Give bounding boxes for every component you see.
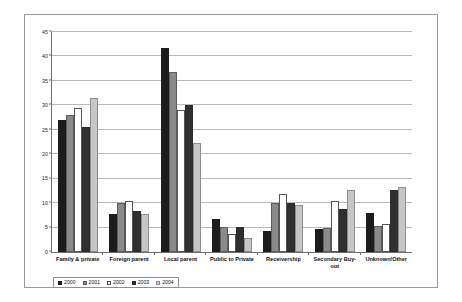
bar-group-bars: [103, 32, 154, 252]
y-tick-label: 20: [42, 152, 48, 157]
bar-group: [155, 32, 206, 252]
bar-2003[interactable]: [287, 203, 295, 252]
bar-2003[interactable]: [390, 190, 398, 252]
y-tick-label: 25: [42, 127, 48, 132]
y-tick-label: 40: [42, 54, 48, 59]
bar-2002[interactable]: [382, 224, 390, 252]
bar-2002[interactable]: [177, 110, 185, 252]
x-axis-tick: [257, 252, 258, 255]
bar-group: [206, 32, 257, 252]
bar-2000[interactable]: [161, 48, 169, 252]
x-axis-tick: [102, 252, 103, 255]
bar-2004[interactable]: [193, 143, 201, 252]
bar-2004[interactable]: [347, 190, 355, 252]
bar-group: [361, 32, 412, 252]
bar-2001[interactable]: [271, 203, 279, 252]
bar-group: [52, 32, 103, 252]
bar-group-bars: [155, 32, 206, 252]
bar-2000[interactable]: [366, 213, 374, 252]
legend-label: 2004: [162, 280, 174, 285]
bar-2003[interactable]: [236, 227, 244, 252]
bar-2003[interactable]: [133, 211, 141, 252]
bar-group-bars: [52, 32, 103, 252]
bar-2004[interactable]: [295, 205, 303, 252]
legend-swatch-icon: [107, 281, 111, 285]
bar-2003[interactable]: [82, 127, 90, 252]
x-axis-labels: Family & privateForeign parentLocal pare…: [52, 256, 412, 270]
legend-item-2002[interactable]: 2002: [107, 280, 125, 285]
bar-2000[interactable]: [263, 231, 271, 252]
bar-2002[interactable]: [279, 194, 287, 252]
bar-2002[interactable]: [331, 201, 339, 252]
x-axis-tick: [154, 252, 155, 255]
x-axis-label: Unknown/Other: [361, 256, 412, 270]
legend-label: 2003: [138, 280, 150, 285]
chart-frame: 051015202530354045 Family & privateForei…: [24, 14, 438, 288]
bar-group: [309, 32, 360, 252]
bar-2000[interactable]: [58, 120, 66, 252]
bar-2001[interactable]: [220, 227, 228, 252]
bar-group-bars: [309, 32, 360, 252]
bar-2002[interactable]: [74, 108, 82, 252]
legend-swatch-icon: [83, 281, 87, 285]
bar-2001[interactable]: [117, 203, 125, 252]
bar-group: [258, 32, 309, 252]
bar-2000[interactable]: [109, 214, 117, 252]
bar-2003[interactable]: [185, 105, 193, 252]
legend-swatch-icon: [156, 281, 160, 285]
bar-2002[interactable]: [125, 201, 133, 252]
x-axis-tick: [205, 252, 206, 255]
x-axis-tick: [308, 252, 309, 255]
legend-item-2004[interactable]: 2004: [156, 280, 174, 285]
legend-item-2003[interactable]: 2003: [132, 280, 150, 285]
bar-2004[interactable]: [141, 214, 149, 252]
x-axis-label: Family & private: [52, 256, 103, 270]
plot-area: 051015202530354045: [51, 32, 412, 253]
bar-group-bars: [258, 32, 309, 252]
chart-legend: 20002001200220032004: [53, 277, 179, 288]
bar-2001[interactable]: [169, 72, 177, 252]
x-axis-tick: [360, 252, 361, 255]
x-axis-label: Local parent: [155, 256, 206, 270]
bar-2001[interactable]: [323, 228, 331, 252]
bar-group-bars: [361, 32, 412, 252]
y-tick-label: 10: [42, 201, 48, 206]
bar-group: [103, 32, 154, 252]
plot-wrapper: 051015202530354045 Family & privateForei…: [25, 15, 437, 287]
bar-2004[interactable]: [90, 98, 98, 252]
bar-groups: [52, 32, 412, 252]
bar-2001[interactable]: [66, 115, 74, 252]
y-tick-label: 30: [42, 103, 48, 108]
y-tick-label: 35: [42, 78, 48, 83]
y-tick-label: 15: [42, 176, 48, 181]
bar-2004[interactable]: [244, 238, 252, 252]
bar-group-bars: [206, 32, 257, 252]
bar-2001[interactable]: [374, 226, 382, 252]
x-axis-label: Receivership: [258, 256, 309, 270]
legend-label: 2002: [113, 280, 125, 285]
bar-2000[interactable]: [212, 219, 220, 252]
bar-2004[interactable]: [398, 187, 406, 253]
bar-2002[interactable]: [228, 234, 236, 252]
legend-swatch-icon: [132, 281, 136, 285]
legend-label: 2001: [89, 280, 101, 285]
bar-2003[interactable]: [339, 209, 347, 252]
legend-item-2001[interactable]: 2001: [83, 280, 101, 285]
y-tick-label: 45: [42, 29, 48, 34]
legend-swatch-icon: [58, 281, 62, 285]
y-tick-label: 0: [45, 249, 48, 254]
y-tick-label: 5: [45, 225, 48, 230]
bar-2000[interactable]: [315, 229, 323, 252]
x-axis-label: Foreign parent: [103, 256, 154, 270]
legend-label: 2000: [64, 280, 76, 285]
x-axis-label: Secondary Buy-out: [309, 256, 360, 270]
x-axis-label: Public to Private: [206, 256, 257, 270]
legend-item-2000[interactable]: 2000: [58, 280, 76, 285]
